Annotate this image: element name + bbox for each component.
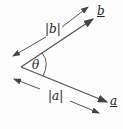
vector-a-label: a	[110, 95, 117, 107]
magnitude-a-label: |a|	[48, 90, 63, 102]
angle-arc	[42, 53, 46, 76]
vector-a-line	[21, 67, 107, 102]
magnitude-a-arrow	[14, 79, 40, 89]
vector-diagram	[0, 0, 123, 129]
angle-theta-label: θ	[32, 59, 39, 71]
vector-b-label: b	[97, 5, 105, 17]
magnitude-b-label: |b|	[45, 23, 61, 35]
